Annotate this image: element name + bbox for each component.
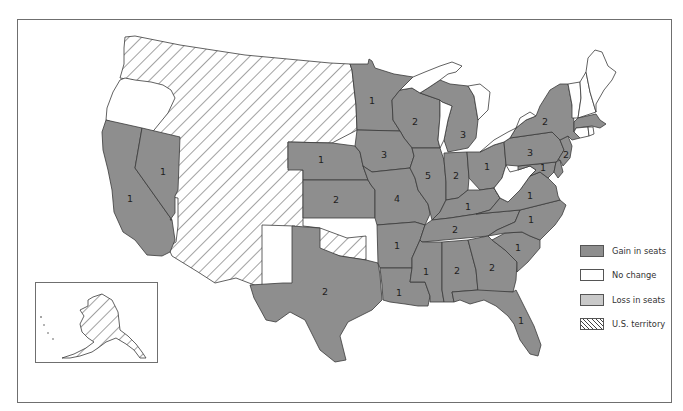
seats-california: 1 [127, 193, 133, 204]
legend-item-gain: Gain in seats [580, 242, 675, 259]
seats-ohio: 1 [484, 161, 490, 172]
seats-minnesota: 1 [369, 95, 375, 106]
legend-item-loss: Loss in seats [580, 291, 675, 308]
gain-swatch [580, 245, 604, 257]
state-rhode-island[interactable] [588, 127, 594, 136]
state-florida[interactable] [452, 290, 541, 356]
territory-hatch-swatch [580, 318, 604, 330]
seats-pennsylvania: 3 [527, 147, 533, 158]
legend-label: Loss in seats [612, 295, 665, 305]
seats-new-york: 2 [542, 116, 548, 127]
legend-item-territory: U.S. territory [580, 316, 675, 333]
seats-texas: 2 [322, 286, 328, 297]
alaska-inset [35, 282, 158, 363]
seats-south-carolina: 1 [515, 242, 521, 253]
seats-michigan: 3 [460, 129, 466, 140]
no-change-swatch [580, 269, 604, 281]
legend-item-no-change: No change [580, 267, 675, 284]
seats-nevada: 1 [160, 166, 166, 177]
seats-louisiana: 1 [396, 287, 402, 298]
seats-nebraska: 1 [318, 154, 324, 165]
seats-georgia: 2 [489, 262, 495, 273]
seats-arkansas: 1 [394, 240, 400, 251]
loss-swatch [580, 294, 604, 306]
seats-tennessee: 2 [452, 224, 458, 235]
seats-north-carolina: 1 [528, 214, 534, 225]
seats-new-jersey: 2 [563, 149, 569, 160]
seats-kentucky: 1 [465, 201, 471, 212]
seats-virginia: 1 [527, 190, 533, 201]
seats-florida: 1 [518, 315, 524, 326]
seats-alabama: 2 [454, 265, 460, 276]
seats-wisconsin: 2 [412, 116, 418, 127]
seats-kansas: 2 [333, 194, 339, 205]
seats-missouri: 4 [394, 193, 400, 204]
legend: Gain in seats No change Loss in seats U.… [580, 242, 675, 340]
seats-mississippi: 1 [423, 266, 429, 277]
legend-label: U.S. territory [612, 319, 665, 329]
legend-label: No change [612, 270, 656, 280]
legend-label: Gain in seats [612, 246, 666, 256]
seats-indiana: 2 [453, 170, 459, 181]
seats-iowa: 3 [381, 149, 387, 160]
seats-illinois: 5 [425, 170, 431, 181]
